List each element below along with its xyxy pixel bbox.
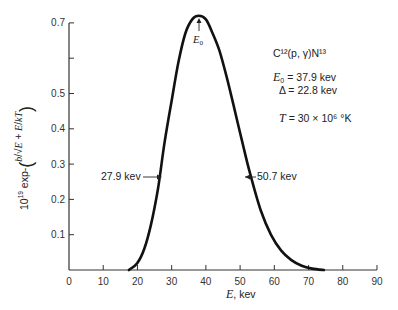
svg-text:50.7 kev: 50.7 kev [257, 170, 297, 182]
axis-ticks: 01020304050607080900.10.20.30.40.50.7 [51, 17, 383, 287]
x-tick-label: 60 [269, 276, 281, 287]
svg-text:E0: E0 [192, 34, 203, 47]
x-tick-label: 90 [371, 276, 383, 287]
left-half-width-marker: 27.9 kev [101, 170, 162, 182]
delta-value: Δ = 22.8 kev [279, 84, 338, 96]
y-tick-label: 0.5 [51, 88, 65, 99]
x-tick-label: 50 [235, 276, 247, 287]
y-tick-label: 0.7 [51, 17, 65, 28]
x-tick-label: 30 [166, 276, 178, 287]
temperature-value: T= 30 × 10⁶ °K [279, 111, 352, 125]
y-tick-label: 0.3 [51, 159, 65, 170]
y-axis-label: 1019 exp-(b/√E + E/kT) [13, 106, 36, 210]
x-tick-label: 40 [200, 276, 212, 287]
x-tick-label: 20 [132, 276, 144, 287]
x-tick-label: 0 [66, 276, 72, 287]
e0-value: E0= 37.9 kev [272, 70, 337, 84]
parameter-box: C¹²(p, γ)N¹³ E0= 37.9 kev Δ = 22.8 kev T… [272, 47, 352, 125]
y-tick-label: 0.4 [51, 123, 65, 134]
y-tick-label: 0.1 [51, 229, 65, 240]
gamow-peak-chart: 01020304050607080900.10.20.30.40.50.7 E0… [0, 0, 398, 310]
x-tick-label: 10 [98, 276, 110, 287]
x-axis-label: E, kev [225, 287, 256, 301]
x-tick-label: 70 [303, 276, 315, 287]
svg-text:27.9 kev: 27.9 kev [101, 170, 141, 182]
peak-marker: E0 [192, 18, 203, 47]
x-tick-label: 80 [337, 276, 349, 287]
reaction-label: C¹²(p, γ)N¹³ [273, 47, 327, 59]
y-tick-label: 0.2 [51, 194, 65, 205]
svg-text:1019 exp-(b/√E + E/kT): 1019 exp-(b/√E + E/kT) [13, 106, 36, 210]
